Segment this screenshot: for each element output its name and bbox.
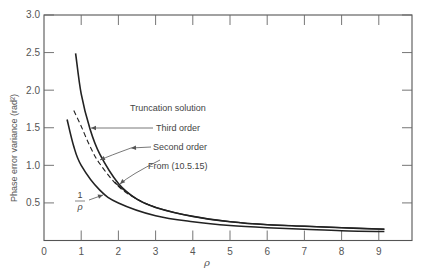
arrow-inverse-rho-head: [98, 195, 103, 199]
x-tick-label: 1: [78, 246, 84, 257]
arrow-second-order-lead-head: [131, 146, 136, 150]
arrow-from-10-5-15-head: [120, 179, 125, 184]
x-axis-label: ρ: [203, 257, 210, 268]
y-tick-label: 1.0: [26, 160, 40, 171]
y-axis-label: Phase error variance (rad²): [9, 94, 19, 202]
annotation-inverse-rho-numerator: 1: [77, 190, 82, 200]
annotation-truncation-solution: Truncation solution: [130, 103, 206, 113]
x-tick-label: 2: [116, 246, 122, 257]
annotation-inverse-rho-denominator: ρ: [76, 202, 82, 212]
y-tick-label: 1.5: [26, 122, 40, 133]
annotations: Truncation solution Third order Second o…: [75, 103, 208, 212]
data-series: [67, 53, 384, 231]
y-tick-label: 3.0: [26, 9, 40, 20]
arrow-third-order-head: [91, 126, 96, 130]
x-tick-label: 6: [264, 246, 270, 257]
annotation-from-10-5-15: From (10.5.15): [148, 161, 208, 171]
x-tick-label: 8: [339, 246, 345, 257]
phase-error-chart: 01234567890.51.01.52.02.53.0 Truncation …: [0, 0, 421, 274]
annotation-third-order: Third order: [156, 123, 200, 133]
y-tick-label: 0.5: [26, 197, 40, 208]
series-from-10-5-15: [115, 182, 385, 229]
y-tick-label: 2.0: [26, 85, 40, 96]
x-tick-label: 9: [376, 246, 382, 257]
x-tick-label: 0: [41, 246, 47, 257]
x-tick-label: 7: [302, 246, 308, 257]
series-inverse-rho: [67, 120, 384, 232]
series-third-order: [76, 53, 385, 229]
x-tick-label: 4: [190, 246, 196, 257]
series-second-order: [74, 111, 156, 208]
annotation-second-order: Second order: [153, 142, 207, 152]
x-tick-label: 3: [153, 246, 159, 257]
x-tick-label: 5: [227, 246, 233, 257]
y-tick-label: 2.5: [26, 47, 40, 58]
